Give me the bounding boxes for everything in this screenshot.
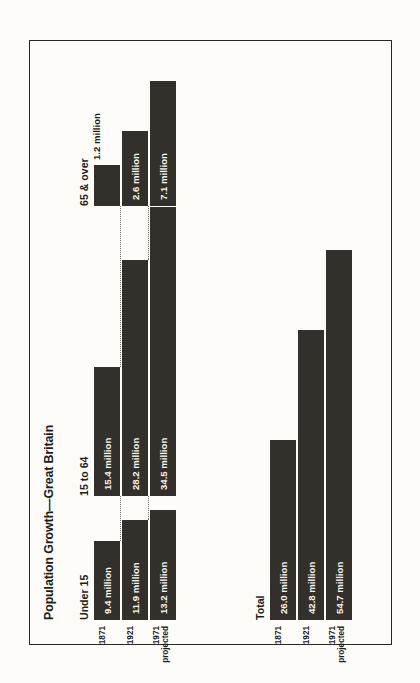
chart-title: Population Growth—Great Britain bbox=[42, 425, 56, 620]
group-label-15-to-64: 15 to 64 bbox=[78, 457, 90, 496]
year-label-total-1921: 1921 bbox=[302, 626, 311, 680]
group-label-under-15: Under 15 bbox=[78, 575, 90, 620]
bar-value-under15-1971: 13.2 million bbox=[158, 562, 169, 614]
bar-value-65over-1971: 7.1 million bbox=[158, 153, 169, 200]
chart-page: Population Growth—Great Britain Under 15… bbox=[0, 0, 420, 683]
bar-value-under15-1871: 9.4 million bbox=[102, 567, 113, 614]
bar-value-15to64-1971: 34.5 million bbox=[158, 438, 169, 490]
chart-rotated-canvas: Population Growth—Great Britain Under 15… bbox=[30, 41, 393, 646]
year-label-total-1971: 1971 projected bbox=[328, 626, 346, 680]
leader-line-15to64-1871 bbox=[120, 206, 121, 367]
bar-value-65over-1921: 2.6 million bbox=[130, 153, 141, 200]
bar-value-15to64-1921: 28.2 million bbox=[130, 438, 141, 490]
bar-value-65over-1871: 1.2 million bbox=[92, 113, 102, 160]
year-label-total-1871: 1871 bbox=[274, 626, 283, 680]
group-label-65-and-over: 65 & over bbox=[78, 158, 90, 206]
bar-value-under15-1921: 11.9 million bbox=[130, 562, 141, 614]
bar-65over-1871 bbox=[94, 165, 120, 206]
bar-value-total-1971: 54.7 million bbox=[334, 562, 345, 614]
leader-line-under15-1921 bbox=[148, 496, 149, 520]
year-label-age-1921: 1921 bbox=[126, 626, 135, 680]
year-label-age-1971: 1971 projected bbox=[152, 626, 170, 680]
bar-value-15to64-1871: 15.4 million bbox=[102, 438, 113, 490]
leader-line-under15-1871 bbox=[120, 496, 121, 541]
leader-line-15to64-1921 bbox=[148, 206, 149, 260]
bar-value-total-1921: 42.8 million bbox=[306, 562, 317, 614]
bar-value-total-1871: 26.0 million bbox=[278, 562, 289, 614]
group-label-total: Total bbox=[254, 595, 266, 620]
chart-frame: Population Growth—Great Britain Under 15… bbox=[29, 40, 392, 645]
year-label-age-1871: 1871 bbox=[98, 626, 107, 680]
